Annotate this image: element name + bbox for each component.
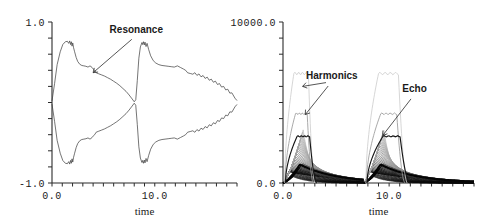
right-y-tick-label: 0.0 [256,179,276,190]
left-series-envelope-upper [52,41,237,102]
left-x-axis-title: time [135,205,155,217]
right-curves [283,72,474,183]
right-axes: 10000.00.00.010.0time [230,18,474,218]
right-plot-svg: 10000.00.00.010.0timeHarmonicsEcho [242,0,485,221]
right-y-tick-label: 10000.0 [230,18,276,29]
right-top-mask [284,0,475,21]
left-y-tick-label: -1.0 [19,179,45,190]
figure-container: 1.0-1.00.010.0timeResonance 10000.00.00.… [0,0,485,221]
right-x-tick-label: 10.0 [376,191,402,202]
left-y-tick-label: 1.0 [25,18,45,29]
right-x-tick-label: 0.0 [273,191,293,202]
left-annotation-label-resonance: Resonance [110,24,164,35]
left-series-envelope-lower [52,103,237,164]
right-annotation-label-echo: Echo [402,83,426,94]
left-x-tick-label: 10.0 [142,191,168,202]
right-plot-panel: 10000.00.00.010.0timeHarmonicsEcho [242,0,485,221]
left-axes: 1.0-1.00.010.0time [19,18,237,218]
right-annotation-leader [383,99,411,136]
left-x-tick-label: 0.0 [42,191,62,202]
left-annotation-0 [93,39,132,72]
right-annotation-label-harmonics: Harmonics [306,70,358,81]
right-annotation-0 [303,83,326,89]
left-annotation-leader [93,39,132,72]
right-annotation-2 [383,99,411,136]
left-plot-svg: 1.0-1.00.010.0timeResonance [0,0,243,221]
left-curves [52,41,237,164]
right-x-axis-title: time [369,205,389,217]
left-plot-panel: 1.0-1.00.010.0timeResonance [0,0,243,221]
